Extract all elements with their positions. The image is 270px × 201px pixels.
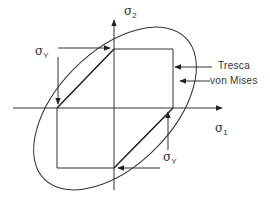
sigma-symbol: σ <box>163 150 171 164</box>
sigma-symbol: σ <box>215 121 223 135</box>
sigma-y-label-upper-left: σY <box>35 45 49 60</box>
sigma-symbol: σ <box>35 44 43 58</box>
von-mises-ellipse <box>4 0 226 201</box>
subscript: 2 <box>132 11 136 20</box>
von-mises-label: von Mises <box>210 76 258 86</box>
tresca-label: Tresca <box>218 61 250 71</box>
yield-criteria-diagram <box>0 0 270 201</box>
sigma2-axis-label: σ2 <box>124 5 137 20</box>
sigma-y-label-lower-right: σY <box>163 151 177 166</box>
subscript: Y <box>43 51 48 60</box>
sigma1-axis-label: σ1 <box>215 122 228 137</box>
sigma-symbol: σ <box>124 4 132 18</box>
subscript: Y <box>171 157 176 166</box>
subscript: 1 <box>223 128 227 137</box>
